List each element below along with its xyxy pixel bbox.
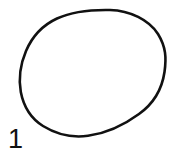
figure-number-label: 1 bbox=[8, 126, 23, 153]
figure-canvas: 1 bbox=[0, 0, 175, 162]
hand-drawn-oval-svg bbox=[0, 0, 175, 162]
hand-drawn-oval-path bbox=[20, 10, 166, 136]
